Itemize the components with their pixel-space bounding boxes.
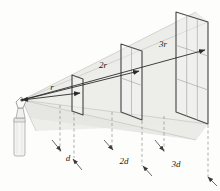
- distance-label-2d: 2d: [120, 156, 130, 166]
- distance-label-d: d: [66, 153, 71, 163]
- diagram-canvas: r 2r 3r d 2d 3d: [0, 0, 220, 191]
- radius-label-3r: 3r: [158, 39, 168, 49]
- dimension-arrow-d-right: [73, 159, 82, 170]
- light-source-lamp: [14, 97, 26, 156]
- panel-3: [176, 12, 208, 124]
- distance-dimension-arrows: [52, 140, 217, 186]
- distance-label-3d: 3d: [171, 159, 182, 169]
- dimension-arrow-3d-right: [208, 177, 217, 186]
- panel-1: [72, 75, 83, 115]
- radius-label-2r: 2r: [99, 60, 108, 70]
- radius-label-r: r: [50, 82, 54, 92]
- dimension-arrow-2d-right: [143, 166, 152, 176]
- panel-2: [121, 44, 142, 120]
- dimension-arrow-3d-left: [155, 140, 164, 151]
- inverse-square-law-figure: r 2r 3r d 2d 3d: [0, 0, 220, 191]
